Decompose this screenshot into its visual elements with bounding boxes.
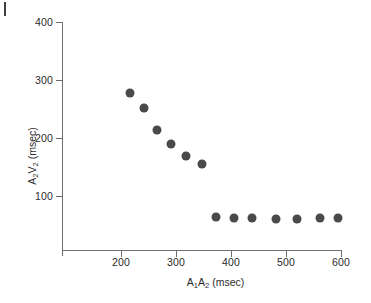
x-axis-title: A1A2 (msec): [0, 276, 371, 288]
data-point: [212, 212, 221, 221]
data-point: [181, 152, 190, 161]
x-tick-label-500: 500: [277, 256, 295, 268]
x-tick-label-400: 400: [222, 256, 240, 268]
data-point: [198, 160, 207, 169]
data-point: [140, 104, 149, 113]
y-axis-title-sub2: 2: [31, 162, 40, 166]
data-point: [293, 214, 302, 223]
y-axis-title: A2V2 (msec): [26, 96, 38, 216]
scatter-plot-figure: 100200300400 200300400500600 A2V2 (msec)…: [0, 0, 371, 303]
x-tick-label-200: 200: [112, 256, 130, 268]
y-axis-line: [62, 22, 63, 250]
x-axis-title-sub1: 1: [194, 281, 198, 290]
x-axis-line: [62, 250, 342, 251]
data-point: [152, 125, 161, 134]
y-tick-label-400: 400: [35, 16, 53, 28]
y-tick-200: [56, 138, 62, 139]
x-axis-title-sub2: 2: [205, 281, 209, 290]
page-edge-artifact: [4, 2, 6, 16]
data-point: [126, 88, 135, 97]
y-axis-title-units: (msec): [26, 127, 38, 162]
x-tick-label-600: 600: [332, 256, 350, 268]
y-axis-title-a: A: [26, 178, 38, 185]
data-point: [316, 214, 325, 223]
data-point: [229, 214, 238, 223]
y-tick-300: [56, 80, 62, 81]
data-point: [272, 214, 281, 223]
origin-tick: [62, 244, 63, 256]
x-axis-title-a1: A: [187, 276, 194, 288]
y-tick-label-300: 300: [35, 74, 53, 86]
y-tick-100: [56, 196, 62, 197]
x-axis-title-units: (msec): [209, 276, 244, 288]
data-point: [247, 214, 256, 223]
x-axis-title-a2: A: [198, 276, 205, 288]
y-axis-title-sub1: 2: [31, 174, 40, 178]
data-point: [334, 213, 343, 222]
data-point: [166, 140, 175, 149]
y-tick-400: [56, 22, 62, 23]
x-tick-label-300: 300: [167, 256, 185, 268]
